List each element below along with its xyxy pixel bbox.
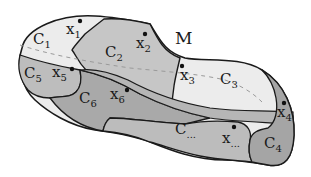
- manifold-label: M: [175, 28, 192, 48]
- point-x1-dot: [78, 19, 82, 23]
- point-x6-dot: [125, 88, 129, 92]
- point-x5-dot: [70, 67, 74, 71]
- point-x-ellipsis-dot: [232, 125, 236, 129]
- manifold-diagram: M C1 C2 C3 C4 C5 C6 C... x1 x2 x3 x4 x5 …: [0, 0, 311, 177]
